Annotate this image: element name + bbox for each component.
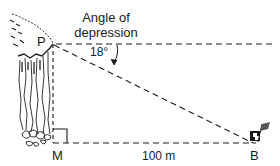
right-angle-marker: [53, 129, 67, 143]
angle-arrow-icon: [111, 45, 118, 65]
diagram-canvas: Angle of depression 18° P M B 100 m: [0, 0, 280, 166]
angle-value-label: 18°: [90, 46, 108, 58]
angle-title-line2: depression: [67, 26, 145, 39]
line-of-sight: [54, 45, 253, 143]
cliff-illustration: [10, 14, 53, 146]
angle-title-line1: Angle of: [72, 11, 140, 24]
point-b-label: B: [250, 149, 259, 162]
distance-label: 100 m: [142, 150, 175, 162]
point-m-label: M: [52, 149, 63, 162]
point-p-label: P: [37, 35, 46, 48]
flag-icon: [250, 122, 270, 142]
